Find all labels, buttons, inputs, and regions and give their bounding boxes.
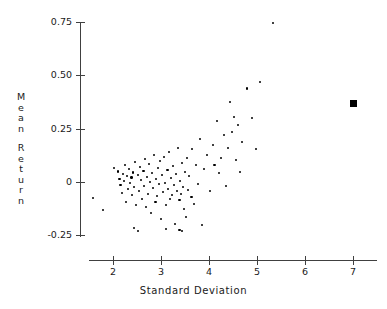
data-point [199, 138, 202, 141]
data-point [188, 175, 191, 178]
data-point [165, 204, 168, 207]
data-point [137, 174, 140, 177]
data-point [172, 165, 175, 168]
data-point [170, 177, 173, 180]
x-axis-tick [257, 256, 258, 265]
data-point [133, 186, 136, 189]
x-axis-line [89, 260, 377, 261]
data-point [206, 154, 209, 157]
data-point [152, 187, 155, 190]
data-point [181, 162, 184, 165]
data-point [251, 117, 254, 120]
x-axis-tick [209, 256, 210, 265]
data-point [153, 154, 156, 157]
data-point [144, 158, 147, 161]
data-point [160, 218, 163, 221]
y-axis-tick-label: -0.25 [47, 230, 72, 240]
data-point [125, 201, 128, 204]
data-point [184, 171, 187, 174]
data-point [166, 169, 169, 172]
data-point [140, 179, 143, 182]
data-point [178, 199, 181, 202]
data-point [124, 164, 127, 167]
data-point [169, 198, 172, 201]
data-point [158, 183, 161, 186]
y-axis-tick-label: 0 [66, 177, 72, 187]
data-point [177, 147, 180, 150]
data-point [255, 148, 258, 151]
x-axis-tick-label: 3 [151, 266, 171, 277]
data-point [183, 208, 186, 211]
data-point [156, 195, 159, 198]
x-axis-tick [353, 256, 354, 265]
data-point [195, 164, 198, 167]
data-point [123, 180, 126, 183]
data-point [163, 156, 166, 159]
data-point [203, 168, 206, 171]
data-point [237, 124, 240, 127]
data-point [148, 163, 151, 166]
y-axis-title-word: Return [12, 143, 30, 206]
data-point [102, 209, 105, 212]
data-point [167, 188, 170, 191]
data-point [147, 193, 150, 196]
x-axis-tick-label: 2 [103, 266, 123, 277]
data-point [182, 186, 185, 189]
data-point [218, 172, 221, 175]
data-point [141, 198, 144, 201]
data-point [121, 192, 124, 195]
x-axis-tick-label: 5 [247, 266, 267, 277]
data-point [162, 191, 165, 194]
x-axis-tick [113, 256, 114, 265]
y-axis-title-char: R [12, 143, 30, 154]
data-point [131, 194, 134, 197]
y-axis-title-word: Mean [12, 92, 30, 134]
data-point [171, 194, 174, 197]
y-axis-tick [76, 129, 85, 130]
data-point [142, 170, 145, 173]
data-point [187, 189, 190, 192]
data-point [225, 185, 228, 188]
data-point [139, 166, 142, 169]
data-point [173, 184, 176, 187]
data-point [180, 193, 183, 196]
data-point [118, 178, 121, 181]
data-point [143, 185, 146, 188]
y-axis-tick [76, 75, 85, 76]
data-point [133, 227, 136, 230]
data-point [179, 180, 182, 183]
data-point [117, 170, 120, 173]
data-point [216, 120, 219, 123]
data-point [175, 173, 178, 176]
y-axis-tick [76, 235, 85, 236]
data-point [181, 230, 184, 233]
data-point [176, 190, 179, 193]
data-point [151, 172, 154, 175]
data-point [241, 141, 244, 144]
y-axis-tick [76, 22, 85, 23]
data-point [92, 197, 95, 200]
y-axis-title-char: a [12, 113, 30, 124]
data-point [130, 176, 133, 179]
x-axis-tick-label: 7 [343, 266, 363, 277]
data-point [155, 178, 158, 181]
data-point [119, 184, 122, 187]
data-point [135, 204, 138, 207]
data-point [134, 161, 137, 164]
data-point [122, 173, 125, 176]
data-point [132, 171, 135, 174]
y-axis-title-char: n [12, 196, 30, 207]
y-axis-title-char: r [12, 185, 30, 196]
x-axis-tick [305, 256, 306, 265]
y-axis-title-char: t [12, 164, 30, 175]
data-point [233, 116, 236, 119]
x-axis-tick [161, 256, 162, 265]
x-axis-tick-label: 6 [295, 266, 315, 277]
data-point [154, 201, 157, 204]
data-point [239, 171, 242, 174]
data-point [129, 182, 132, 185]
data-point [127, 188, 130, 191]
data-point [209, 190, 212, 193]
data-point [126, 175, 129, 178]
y-axis-tick-label: 0.25 [51, 124, 72, 134]
